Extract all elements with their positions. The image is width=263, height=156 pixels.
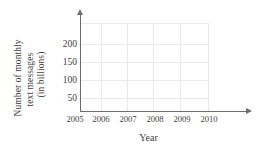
y-axis-title-line-3: (in billions) <box>37 51 47 97</box>
y-axis-tick-label: 150 <box>53 58 77 68</box>
gridline-vertical <box>101 23 102 112</box>
y-axis-title-line-1: Number of monthly <box>14 39 24 116</box>
x-axis-tick-label: 2007 <box>115 115 141 124</box>
y-axis-tick-labels: 200 150 100 50 <box>52 0 77 130</box>
gridline-vertical <box>127 23 128 112</box>
y-axis-title-line-2: text messages <box>26 52 36 106</box>
arrow-right-icon <box>246 108 252 114</box>
x-axis-tick-label: 2009 <box>169 115 195 124</box>
arrow-up-icon <box>77 9 83 15</box>
y-axis-line <box>80 13 81 112</box>
x-axis-tick-label: 2005 <box>62 115 88 124</box>
gridline-vertical <box>208 23 209 112</box>
x-axis-line <box>80 111 248 112</box>
x-axis-tick-label: 2006 <box>88 115 114 124</box>
gridline-vertical <box>153 23 154 112</box>
y-axis-tick-label: 50 <box>53 94 77 104</box>
x-axis-tick-label: 2008 <box>142 115 168 124</box>
x-axis-tick-label: 2010 <box>196 115 222 124</box>
y-axis-tick-label: 200 <box>53 40 77 50</box>
x-axis-title-text: Year <box>139 132 157 143</box>
gridline-vertical <box>180 23 181 112</box>
chart-screenshot: Number of monthly text messages (in bill… <box>0 0 263 156</box>
x-axis-title: Year <box>0 132 263 143</box>
y-axis-tick-label: 100 <box>53 76 77 86</box>
plot-area <box>81 23 209 112</box>
